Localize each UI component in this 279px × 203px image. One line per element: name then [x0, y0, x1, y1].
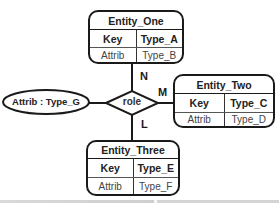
entity-two[interactable]: Entity_Two Key Type_C Attrib Type_D [173, 74, 275, 128]
entity-three-attr-row: Attrib Type_F [88, 178, 178, 194]
cardinality-m: M [158, 86, 167, 98]
attribute-label: Attrib : Type_G [3, 96, 89, 107]
entity-one[interactable]: Entity_One Key Type_A Attrib Type_B [88, 10, 184, 64]
entity-three-key-row: Key Type_E [88, 159, 178, 178]
entity-three-title: Entity_Three [88, 142, 178, 159]
entity-three[interactable]: Entity_Three Key Type_E Attrib Type_F [86, 140, 180, 196]
entity-two-attr-row: Attrib Type_D [175, 113, 273, 126]
entity-two-key-name: Key [175, 94, 225, 112]
entity-two-attr-type: Type_D [225, 113, 274, 126]
entity-two-key-row: Key Type_C [175, 94, 273, 113]
entity-two-title: Entity_Two [175, 76, 273, 94]
entity-three-key-name: Key [88, 159, 134, 177]
entity-one-title: Entity_One [90, 12, 182, 30]
relationship-label: role [106, 96, 158, 107]
bottom-divider [0, 200, 279, 203]
entity-one-attr-type: Type_B [137, 48, 183, 62]
entity-three-attr-type: Type_F [134, 178, 179, 194]
entity-three-key-type: Type_E [134, 159, 179, 177]
entity-two-key-type: Type_C [225, 94, 274, 112]
cardinality-l: L [141, 118, 148, 130]
entity-one-key-row: Key Type_A [90, 30, 182, 48]
entity-two-attr-name: Attrib [175, 113, 225, 126]
cardinality-n: N [140, 70, 148, 82]
entity-one-key-type: Type_A [137, 30, 183, 47]
entity-one-attr-row: Attrib Type_B [90, 48, 182, 62]
er-diagram-canvas: role Attrib : Type_G N M L Entity_One Ke… [0, 0, 279, 203]
entity-one-attr-name: Attrib [90, 48, 137, 62]
entity-one-key-name: Key [90, 30, 137, 47]
entity-three-attr-name: Attrib [88, 178, 134, 194]
